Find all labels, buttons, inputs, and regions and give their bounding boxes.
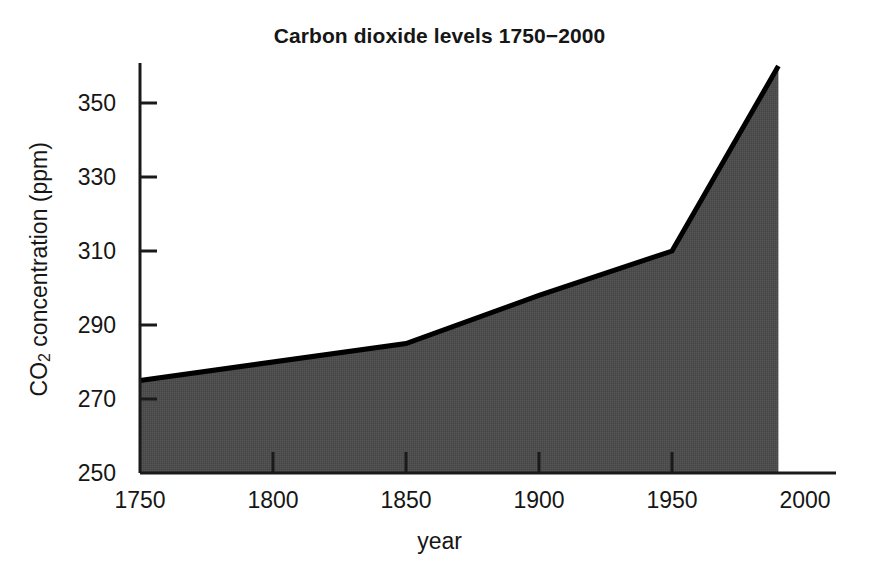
x-tick-label-1850: 1850 [346,487,466,514]
x-tick-label-1900: 1900 [479,487,599,514]
y-tick-label-330: 330 [36,164,116,191]
x-tick-label-2000: 2000 [745,487,865,514]
x-tick-label-1800: 1800 [213,487,333,514]
y-tick-label-290: 290 [36,312,116,339]
y-tick-label-350: 350 [36,90,116,117]
co2-area-fill [140,66,778,473]
y-tick-label-310: 310 [36,238,116,265]
chart-figure: Carbon dioxide levels 1750−2000 CO2 conc… [0,0,879,586]
y-tick-label-250: 250 [36,460,116,487]
series-area-group [140,66,778,473]
x-tick-label-1950: 1950 [612,487,732,514]
x-tick-label-1750: 1750 [80,487,200,514]
x-axis-label: year [0,528,879,555]
y-tick-label-270: 270 [36,386,116,413]
